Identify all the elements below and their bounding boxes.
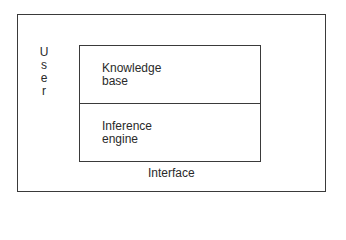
- section-divider: [79, 103, 261, 104]
- interface-label: Interface: [148, 167, 195, 180]
- knowledge-base-label: Knowledge base: [102, 62, 222, 88]
- inference-engine-line2: engine: [102, 133, 222, 146]
- user-letter-r: r: [38, 85, 50, 98]
- inference-engine-label: Inference engine: [102, 120, 222, 146]
- knowledge-base-line2: base: [102, 75, 222, 88]
- user-label: U s e r: [38, 46, 50, 98]
